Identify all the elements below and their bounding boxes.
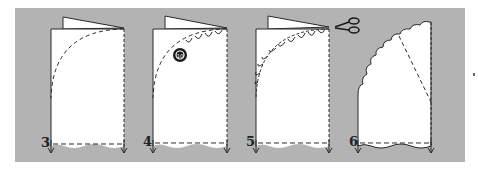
card-front <box>256 29 329 148</box>
card-front <box>153 29 227 148</box>
step-3-illustration <box>48 17 127 153</box>
step-number-5: 5 <box>246 135 255 148</box>
print-speck <box>473 73 475 76</box>
svg-text:10: 10 <box>177 53 183 59</box>
step-number-4: 4 <box>143 135 152 148</box>
step-4-illustration: 10 <box>150 16 230 153</box>
step-number-6: 6 <box>349 135 358 148</box>
step-number-3: 3 <box>41 136 50 149</box>
card-front <box>51 29 124 148</box>
coin-icon: 10 <box>173 48 187 62</box>
diagram: 10 <box>0 0 478 169</box>
